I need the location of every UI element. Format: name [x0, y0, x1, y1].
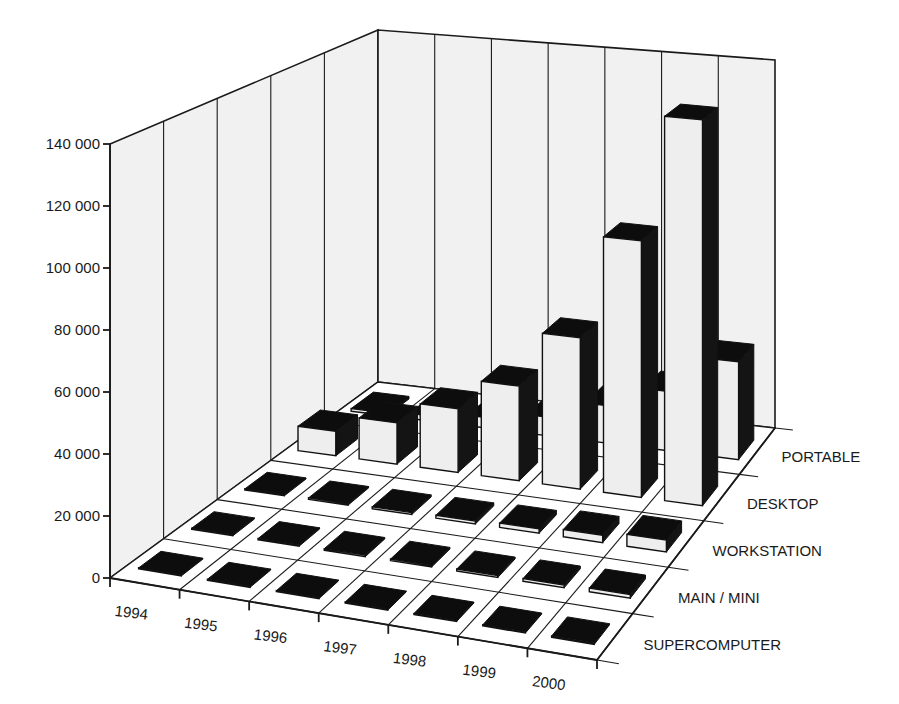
depth-axis-tick [739, 474, 758, 476]
series-label-workstation: WORKSTATION [713, 542, 822, 559]
y-tick-label: 40 000 [54, 445, 100, 462]
y-tick-label: 100 000 [46, 259, 100, 276]
series-label-main-mini: MAIN / MINI [678, 589, 760, 606]
bar-desktop-1995 [359, 402, 417, 464]
bar-desktop-1997 [481, 365, 537, 481]
series-label-portable: PORTABLE [782, 448, 861, 465]
bar-desktop-1999 [604, 223, 658, 498]
y-tick-label: 0 [92, 569, 100, 586]
x-tick-label-2000: 2000 [531, 672, 566, 693]
x-tick-label-1995: 1995 [183, 614, 218, 635]
series-label-desktop: DESKTOP [747, 495, 818, 512]
bar-desktop-2000 [665, 104, 718, 506]
y-tick-label: 80 000 [54, 321, 100, 338]
y-tick-label: 120 000 [46, 197, 100, 214]
depth-axis-tick [597, 660, 619, 664]
series-label-supercomputer: SUPERCOMPUTER [643, 636, 781, 653]
x-tick-label-1999: 1999 [462, 660, 497, 681]
bar-desktop-1998 [542, 318, 597, 489]
y-tick-label: 60 000 [54, 383, 100, 400]
y-tick-label: 20 000 [54, 507, 100, 524]
x-tick-label-1994: 1994 [114, 602, 149, 623]
3d-bar-chart: 020 00040 00060 00080 000100 000120 0001… [0, 0, 899, 704]
depth-axis-tick [775, 428, 793, 430]
x-tick-label-1996: 1996 [253, 625, 288, 646]
x-tick-label-1997: 1997 [323, 637, 358, 658]
y-axis: 020 00040 00060 00080 000100 000120 0001… [46, 135, 110, 586]
y-tick-label: 140 000 [46, 135, 100, 152]
x-tick-label-1998: 1998 [392, 649, 427, 670]
bar-desktop-1996 [420, 388, 477, 473]
depth-axis-tick [704, 521, 723, 524]
depth-axis-tick [633, 614, 654, 617]
depth-axis-tick [668, 567, 688, 570]
